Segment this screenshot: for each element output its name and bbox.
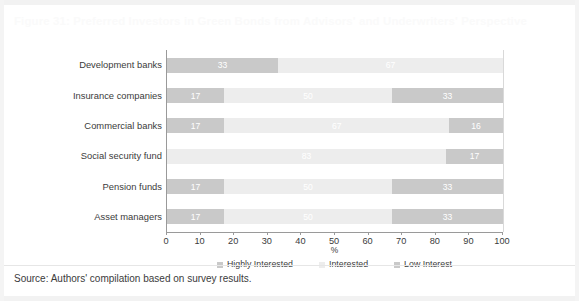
frame-right-divider [575, 0, 579, 301]
bar-value-label: 33 [443, 91, 453, 101]
x-axis-tick-mark [200, 232, 201, 235]
bar-segment: 33 [392, 209, 503, 224]
bar-segment: 17 [167, 209, 224, 224]
stacked-bar-rows: 33671750331767168317175033175033 [167, 50, 503, 232]
figure-title: Figure 31: Preferred Investors in Green … [14, 14, 570, 28]
x-axis-tick-mark [166, 232, 167, 235]
bar-value-label: 50 [303, 182, 313, 192]
bar-segment: 17 [446, 149, 503, 164]
bar-row: 175033 [167, 209, 503, 224]
bar-segment: 16 [449, 118, 503, 133]
x-axis-tick-mark [233, 232, 234, 235]
bar-segment: 50 [224, 209, 392, 224]
bar-segment: 67 [224, 118, 449, 133]
x-axis-title: % [166, 245, 503, 255]
bar-row: 175033 [167, 88, 503, 103]
bar-row: 8317 [167, 149, 503, 164]
frame-bottom-divider [0, 296, 579, 301]
x-axis-tick-mark [435, 232, 436, 235]
bar-value-label: 17 [191, 121, 201, 131]
x-axis-tick-mark [334, 232, 335, 235]
bar-value-label: 50 [303, 91, 313, 101]
bar-value-label: 16 [471, 121, 481, 131]
y-axis-label: Development banks [14, 59, 162, 71]
bar-value-label: 17 [191, 212, 201, 222]
bar-segment: 17 [167, 179, 224, 194]
bar-value-label: 67 [386, 60, 396, 70]
chart-plot-area: 33671750331767168317175033175033 [166, 50, 504, 232]
bar-value-label: 33 [443, 212, 453, 222]
bar-value-label: 83 [302, 151, 312, 161]
x-axis-tick-mark [468, 232, 469, 235]
bar-row: 176716 [167, 118, 503, 133]
bar-value-label: 17 [191, 182, 201, 192]
chart-plot-panel: Development banksInsurance companiesComm… [14, 36, 565, 260]
source-divider [4, 265, 575, 266]
bar-row: 3367 [167, 58, 503, 73]
y-axis-label: Social security fund [14, 150, 162, 162]
bar-value-label: 17 [470, 151, 480, 161]
x-axis-tick-mark [368, 232, 369, 235]
x-axis-tick-mark [267, 232, 268, 235]
bar-value-label: 17 [191, 91, 201, 101]
source-note: Source: Authors' compilation based on su… [14, 272, 252, 285]
bar-row: 175033 [167, 179, 503, 194]
y-axis-category-labels: Development banksInsurance companiesComm… [14, 50, 162, 232]
bar-segment: 67 [278, 58, 503, 73]
x-axis-tick-mark [300, 232, 301, 235]
bar-value-label: 50 [303, 212, 313, 222]
bar-segment: 17 [167, 88, 224, 103]
y-axis-label: Asset managers [14, 211, 162, 223]
frame-left-divider [0, 0, 4, 301]
bar-segment: 33 [392, 88, 503, 103]
bar-segment: 50 [224, 88, 392, 103]
bar-value-label: 67 [332, 121, 342, 131]
bar-segment: 50 [224, 179, 392, 194]
bar-value-label: 33 [443, 182, 453, 192]
bar-segment: 33 [167, 58, 278, 73]
x-axis-tick-mark [502, 232, 503, 235]
y-axis-label: Pension funds [14, 181, 162, 193]
bar-value-label: 33 [218, 60, 228, 70]
frame-top-divider [0, 0, 579, 5]
bar-segment: 33 [392, 179, 503, 194]
bar-segment: 83 [167, 149, 446, 164]
y-axis-label: Commercial banks [14, 120, 162, 132]
y-axis-label: Insurance companies [14, 90, 162, 102]
bar-segment: 17 [167, 118, 224, 133]
x-axis-tick-mark [401, 232, 402, 235]
figure-container: Figure 31: Preferred Investors in Green … [0, 0, 579, 301]
